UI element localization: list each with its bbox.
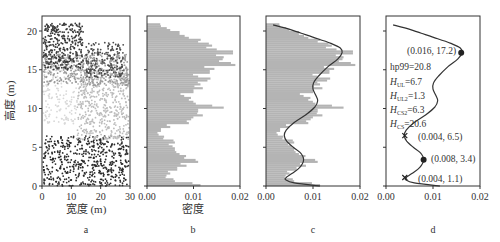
h-ul-label: HUL=6.7 — [389, 77, 422, 88]
panel-c-histogram-kde: 0.000.010.02 c — [257, 16, 369, 235]
y-tick-label: 15 — [27, 64, 37, 75]
panel-label-d: d — [431, 224, 436, 235]
panel-b-histogram: 0.000.010.02 密度 b — [138, 16, 249, 235]
peak-marker — [421, 157, 427, 163]
peak-label-2: (0.008, 3.4) — [431, 154, 475, 165]
x-axis-title: 密度 — [182, 202, 204, 215]
x-tick-label: 0.00 — [377, 191, 395, 202]
h-ul2-label: HUL2=1.3 — [389, 91, 425, 102]
x-tick-label: 0.01 — [185, 191, 203, 202]
x-tick-label: 0 — [40, 191, 45, 202]
panel-a-scatter: 05101520 0102030 宽度 (m) 高度 (m) a — [3, 16, 135, 235]
trough-label-2: (0.004, 1.1) — [418, 174, 462, 185]
x-tick-label: 10 — [66, 191, 76, 202]
panel-d-kde-annotated: 0.000.010.02 (0.016, 17.2) hp99=20.8 HUL… — [377, 16, 489, 235]
y-axis-ticks: 05101520 — [27, 26, 42, 192]
x-tick-label: 0.02 — [351, 191, 369, 202]
panel-label-b: b — [191, 224, 196, 235]
y-tick-label: 0 — [32, 181, 37, 192]
panel-label-a: a — [84, 224, 89, 235]
x-axis-ticks: 0.000.010.02 — [377, 186, 489, 202]
x-tick-label: 0.01 — [424, 191, 442, 202]
x-axis-ticks: 0.000.010.02 — [138, 186, 249, 202]
panel-label-c: c — [311, 224, 316, 235]
scatter-points — [42, 23, 130, 187]
x-tick-label: 0.00 — [138, 191, 156, 202]
h-cs-label: HCS=20.6 — [389, 119, 426, 130]
x-tick-label: 30 — [125, 191, 135, 202]
hp99-label: hp99=20.8 — [390, 62, 431, 72]
histogram-bars — [147, 23, 235, 186]
x-tick-label: 0.02 — [471, 191, 489, 202]
x-tick-label: 20 — [96, 191, 106, 202]
figure: 05101520 0102030 宽度 (m) 高度 (m) a 0.000.0… — [0, 0, 500, 242]
y-tick-label: 20 — [27, 26, 37, 37]
y-tick-label: 10 — [27, 103, 37, 114]
trough-label-1: (0.004, 6.5) — [418, 132, 462, 143]
x-tick-label: 0.02 — [231, 191, 249, 202]
x-tick-label: 0.00 — [257, 191, 275, 202]
peak-label-1: (0.016, 17.2) — [407, 46, 456, 57]
peak-marker — [458, 50, 464, 56]
h-cs2-label: HCS2=6.3 — [389, 105, 425, 116]
x-tick-label: 0.01 — [304, 191, 322, 202]
y-axis-title: 高度 (m) — [3, 80, 17, 121]
y-tick-label: 5 — [32, 142, 37, 153]
x-axis-title: 宽度 (m) — [66, 202, 107, 216]
x-axis-ticks: 0102030 — [40, 186, 136, 202]
x-axis-ticks: 0.000.010.02 — [257, 186, 369, 202]
histogram-bars — [266, 23, 355, 186]
